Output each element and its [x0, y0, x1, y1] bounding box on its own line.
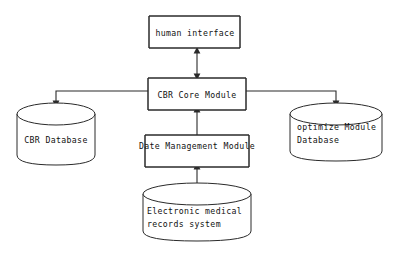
node-optimize-module-database[interactable]: optimize Module Database	[290, 103, 382, 161]
node-human-interface[interactable]: human interface	[149, 16, 240, 48]
diagram-svg: human interface CBR Core Module	[0, 0, 398, 255]
node-label-emr-line2: records system	[147, 219, 221, 229]
node-label-cbr-core-module: CBR Core Module	[157, 90, 236, 100]
node-label-emr-line1: Electronic medical	[147, 206, 242, 216]
node-label-human-interface: human interface	[155, 28, 234, 38]
diagram-canvas: human interface CBR Core Module	[0, 0, 398, 255]
node-label-date-management-module: Date Management Module	[139, 141, 255, 151]
node-cbr-core-module[interactable]: CBR Core Module	[148, 78, 246, 110]
node-label-optimize-module-database-line1: optimize Module	[297, 122, 376, 132]
emr-top	[143, 183, 251, 205]
node-cbr-database[interactable]: CBR Database	[17, 103, 95, 165]
node-electronic-medical-records-system[interactable]: Electronic medical records system	[143, 183, 251, 241]
node-label-optimize-module-database-line2: Database	[297, 135, 339, 145]
node-date-management-module[interactable]: Date Management Module	[139, 135, 255, 167]
cbr-database-top	[17, 103, 95, 125]
edge-core-human	[194, 47, 201, 80]
node-label-cbr-database: CBR Database	[24, 135, 87, 145]
